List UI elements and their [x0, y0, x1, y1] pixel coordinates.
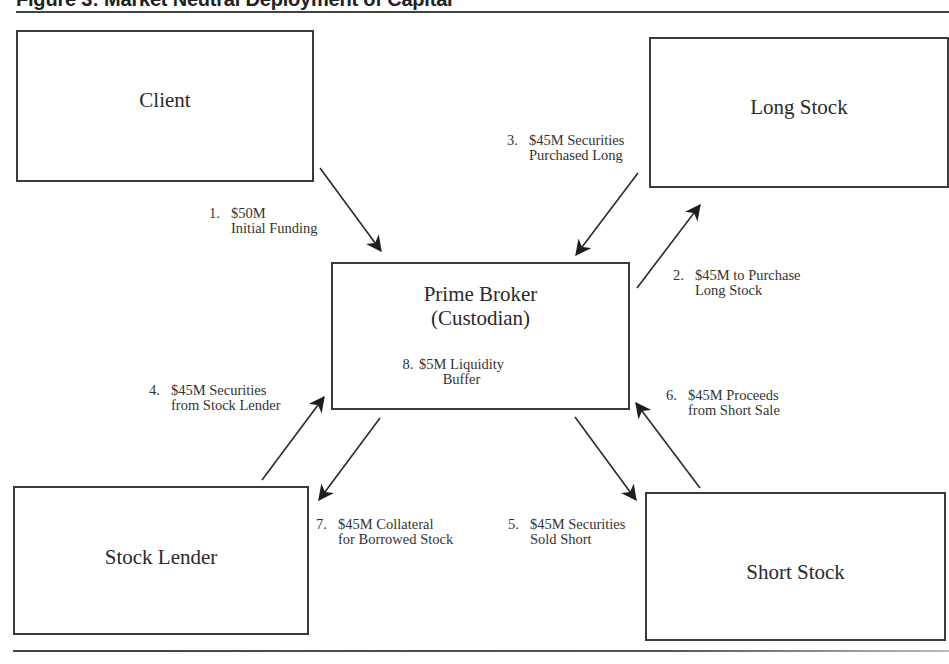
- flow-1-number: 1.: [209, 206, 231, 221]
- flow-4-line2: from Stock Lender: [149, 398, 281, 413]
- flow-3-line2: Purchased Long: [507, 148, 624, 163]
- flow-note-4: 4.$45M Securities from Stock Lender: [149, 383, 281, 413]
- flow-note-3: 3.$45M Securities Purchased Long: [507, 133, 624, 163]
- flow-5-line2: Sold Short: [508, 532, 625, 547]
- flow-arrows: [0, 0, 949, 664]
- flow-5-line1: $45M Securities: [530, 516, 625, 532]
- arrow-1-client-to-prime-broker: [320, 168, 381, 251]
- flow-7-line2: for Borrowed Stock: [316, 532, 453, 547]
- flow-6-line2: from Short Sale: [666, 403, 780, 418]
- flow-note-2: 2.$45M to Purchase Long Stock: [673, 268, 801, 298]
- flow-4-line1: $45M Securities: [171, 382, 266, 398]
- arrow-5-prime-broker-to-short-stock: [575, 417, 636, 500]
- flow-7-number: 7.: [316, 517, 338, 532]
- flow-5-number: 5.: [508, 517, 530, 532]
- bottom-rule: [13, 650, 949, 652]
- arrow-3-long-stock-to-prime-broker: [576, 173, 638, 255]
- flow-6-number: 6.: [666, 388, 688, 403]
- flow-1-line1: $50M: [231, 205, 266, 221]
- flow-2-number: 2.: [673, 268, 695, 283]
- flow-6-line1: $45M Proceeds: [688, 387, 779, 403]
- flow-2-line2: Long Stock: [673, 283, 801, 298]
- flow-note-7: 7.$45M Collateral for Borrowed Stock: [316, 517, 453, 547]
- flow-note-1: 1.$50M Initial Funding: [209, 206, 318, 236]
- flow-7-line1: $45M Collateral: [338, 516, 433, 532]
- flow-note-6: 6.$45M Proceeds from Short Sale: [666, 388, 780, 418]
- flow-3-number: 3.: [507, 133, 529, 148]
- arrow-7-prime-broker-to-stock-lender: [319, 418, 380, 500]
- flow-4-number: 4.: [149, 383, 171, 398]
- flow-2-line1: $45M to Purchase: [695, 267, 801, 283]
- flow-3-line1: $45M Securities: [529, 132, 624, 148]
- flow-1-line2: Initial Funding: [209, 221, 318, 236]
- flow-note-5: 5.$45M Securities Sold Short: [508, 517, 625, 547]
